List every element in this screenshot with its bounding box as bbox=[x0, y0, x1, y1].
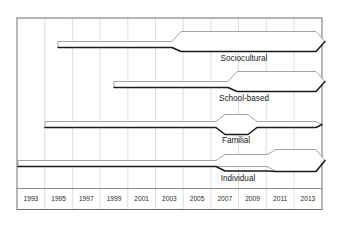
band-label-familial: Familial bbox=[222, 136, 250, 145]
year-tick-label: 1997 bbox=[79, 195, 94, 202]
timeline-chart: Sociocultural School-based Familial Indi… bbox=[0, 0, 339, 228]
band-label-sociocultural: Sociocultural bbox=[221, 54, 268, 63]
year-tick-label: 2001 bbox=[134, 195, 149, 202]
year-tick-label: 2007 bbox=[217, 195, 232, 202]
band-label-individual: Individual bbox=[221, 174, 256, 183]
year-tick-label: 1993 bbox=[24, 195, 39, 202]
year-tick-label: 2011 bbox=[273, 195, 288, 202]
year-tick-label: 2009 bbox=[245, 195, 260, 202]
timeline-chart-canvas: Sociocultural School-based Familial Indi… bbox=[0, 0, 339, 228]
year-tick-label: 2005 bbox=[190, 195, 205, 202]
band-label-school-based: School-based bbox=[219, 94, 270, 103]
year-tick-label: 1995 bbox=[51, 195, 66, 202]
year-tick-label: 2013 bbox=[301, 195, 316, 202]
year-tick-label: 2003 bbox=[162, 195, 177, 202]
year-tick-label: 1999 bbox=[107, 195, 122, 202]
